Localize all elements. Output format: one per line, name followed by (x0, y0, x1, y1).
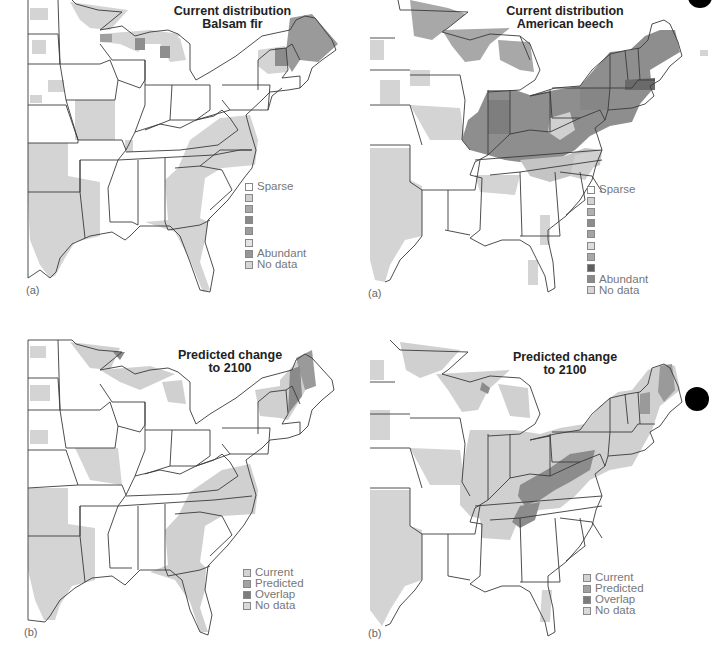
legend-swatch (243, 580, 251, 588)
map-eastern-us (370, 0, 725, 326)
panel-label: (a) (368, 287, 381, 299)
legend-swatch (583, 607, 591, 615)
map-shading (370, 0, 708, 285)
legend-item (587, 251, 648, 262)
legend-item: No data (587, 285, 648, 296)
legend: Current Predicted Overlap No data (243, 567, 304, 611)
legend-item: No data (243, 600, 304, 611)
legend-swatch (587, 186, 595, 194)
panel-beech-predicted: Predicted change to 2100 Current Predict… (370, 330, 725, 653)
legend-swatch (587, 208, 595, 216)
legend-swatch (583, 596, 591, 604)
legend-label: No data (599, 285, 639, 296)
legend-swatch (243, 602, 251, 610)
legend-swatch (245, 216, 253, 224)
map-eastern-us (370, 330, 725, 653)
legend-swatch (583, 574, 591, 582)
legend-item: No data (583, 605, 644, 616)
legend-swatch (245, 227, 253, 235)
legend-swatch (245, 250, 253, 258)
legend-item (245, 226, 306, 237)
legend-label: No data (257, 259, 297, 270)
legend-item: Abundant (587, 274, 648, 285)
legend-item (245, 215, 306, 226)
panel-label: (b) (24, 626, 37, 638)
legend-item: No data (245, 259, 306, 270)
legend-swatch (245, 183, 253, 191)
panel-balsam-predicted: Predicted change to 2100 Current Predict… (0, 330, 362, 653)
legend-item: Sparse (245, 181, 306, 192)
legend-swatch (587, 197, 595, 205)
legend-swatch (583, 585, 591, 593)
legend-swatch (587, 275, 595, 283)
legend-item (587, 262, 648, 273)
legend-swatch (245, 239, 253, 247)
legend-swatch (587, 264, 595, 272)
legend-swatch (587, 230, 595, 238)
legend-label: Sparse (257, 181, 293, 192)
map-title-line2: to 2100 (505, 364, 625, 377)
page-marker-dot (685, 387, 709, 411)
map-eastern-us (0, 330, 362, 653)
legend-item (587, 240, 648, 251)
map-title: Predicted change to 2100 (165, 349, 295, 375)
legend-swatch (587, 242, 595, 250)
legend-swatch (243, 569, 251, 577)
legend-swatch (245, 261, 253, 269)
legend-item (245, 203, 306, 214)
legend-label: No data (255, 600, 295, 611)
legend-swatch (245, 194, 253, 202)
panel-beech-current: Current distribution American beech Spar… (370, 0, 725, 326)
map-title-line2: Balsam fir (160, 18, 305, 31)
legend-swatch (587, 286, 595, 294)
legend-item (587, 218, 648, 229)
panel-label: (a) (26, 284, 39, 296)
legend-label: No data (595, 605, 635, 616)
legend-swatch (243, 591, 251, 599)
legend: Sparse Abundant No data (245, 181, 306, 271)
map-title: Current distribution Balsam fir (160, 5, 305, 31)
legend-label: Sparse (599, 184, 635, 195)
legend: Current Predicted Overlap No data (583, 572, 644, 616)
legend-item (587, 195, 648, 206)
legend-item (587, 229, 648, 240)
panel-balsam-current: Current distribution Balsam fir Sparse A… (0, 0, 362, 326)
legend-item: Sparse (587, 184, 648, 195)
legend-swatch (587, 219, 595, 227)
map-title-line2: to 2100 (165, 362, 295, 375)
legend-item (245, 192, 306, 203)
legend-swatch (245, 205, 253, 213)
legend-item (587, 206, 648, 217)
map-title: Predicted change to 2100 (505, 351, 625, 377)
panel-label: (b) (368, 627, 381, 639)
legend-swatch (587, 253, 595, 261)
map-eastern-us (0, 0, 362, 326)
map-title-line2: American beech (505, 18, 625, 31)
map-title: Current distribution American beech (505, 5, 625, 31)
legend: Sparse Abundant No data (587, 184, 648, 296)
